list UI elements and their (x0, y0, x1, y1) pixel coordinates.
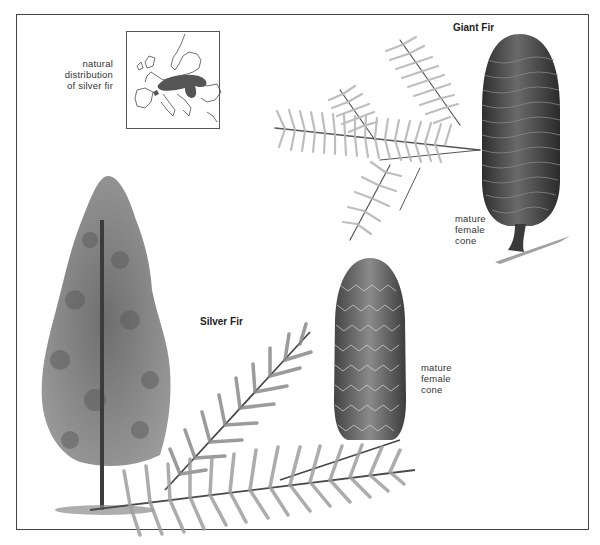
label-line: mature (421, 362, 452, 373)
label-line: female (421, 373, 452, 384)
label-line: cone (421, 384, 452, 395)
silver-fir-cone-label: mature female cone (421, 362, 452, 395)
silver-fir-cone-icon (0, 0, 600, 545)
